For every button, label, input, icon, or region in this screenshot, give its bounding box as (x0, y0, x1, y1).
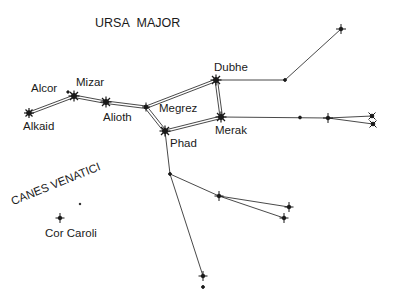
cor-caroli-label: Cor Caroli (45, 228, 97, 240)
phad-label: Phad (170, 138, 197, 150)
constellation-title: URSA MAJOR (95, 17, 180, 30)
star-chart (0, 0, 400, 301)
star-dot-icon (79, 203, 81, 205)
star-dot-icon (169, 173, 172, 176)
dubhe-label: Dubhe (214, 62, 248, 74)
dubhe-star-icon (211, 75, 222, 86)
mizar-star-icon (69, 91, 80, 102)
star-icon (280, 213, 289, 223)
star-markers (24, 24, 377, 288)
phad-star-icon (160, 126, 171, 137)
star-dot-icon (202, 286, 205, 289)
star-icon (323, 113, 333, 123)
alcor-label: Alcor (31, 83, 57, 95)
star-icon (285, 202, 294, 212)
single-lines (165, 29, 373, 276)
cor-caroli-star-icon (56, 213, 65, 223)
mizar-label: Mizar (76, 77, 104, 89)
megrez-star-icon (142, 103, 150, 112)
alioth-star-icon (101, 97, 112, 108)
megrez-label: Megrez (159, 103, 197, 115)
alkaid-label: Alkaid (23, 121, 54, 133)
alkaid-star-icon (24, 108, 34, 118)
star-icon (199, 271, 208, 281)
alioth-label: Alioth (103, 112, 132, 124)
merak-label: Merak (215, 125, 247, 137)
star-icon (215, 191, 224, 201)
star-dot-icon (299, 116, 302, 119)
star-dot-icon (284, 79, 287, 82)
merak-star-icon (216, 112, 227, 123)
alcor-star-icon (67, 91, 69, 93)
